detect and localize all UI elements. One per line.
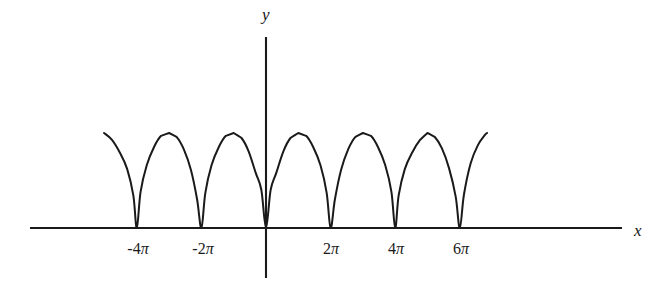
y-axis-label: y — [262, 6, 270, 23]
x-tick-label-neg-2pi: -2π — [192, 241, 213, 257]
x-tick-label-2pi: 2π — [323, 241, 339, 257]
x-tick-label-6pi: 6π — [453, 241, 469, 257]
function-curve — [104, 133, 487, 228]
function-graph-figure: y x -4π -2π 2π 4π 6π — [0, 0, 659, 290]
x-axis-label: x — [634, 222, 642, 239]
x-tick-label-neg-4pi: -4π — [127, 241, 148, 257]
x-tick-label-4pi: 4π — [388, 241, 404, 257]
